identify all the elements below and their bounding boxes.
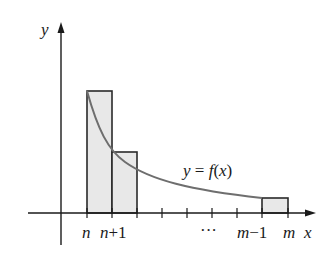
rect-n: [87, 91, 112, 213]
y-axis-label: y: [39, 20, 49, 39]
diagram-canvas: y x y = f(x) n n+1 ··· m−1 m: [0, 0, 323, 254]
tick-label-m: m: [283, 223, 295, 242]
x-axis-arrow-icon: [305, 210, 316, 217]
y-axis-arrow-icon: [58, 22, 65, 33]
tick-label-m-minus-1: m−1: [237, 223, 267, 242]
x-axis-label: x: [303, 223, 312, 242]
tick-label-n: n: [82, 223, 91, 242]
tick-label-n-plus-1: n+1: [100, 223, 127, 242]
integral-test-diagram: y x y = f(x) n n+1 ··· m−1 m: [0, 0, 323, 254]
tick-label-dots: ···: [200, 221, 217, 240]
rect-m-minus-1: [262, 198, 288, 213]
curve-label: y = f(x): [181, 161, 232, 180]
